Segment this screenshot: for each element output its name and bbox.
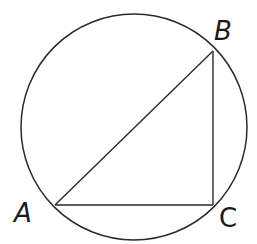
- vertex-label-a: A: [12, 198, 32, 228]
- vertex-label-c: C: [219, 203, 237, 233]
- geometry-diagram: A B C: [0, 0, 257, 244]
- segment-ab-hypotenuse: [55, 51, 213, 205]
- vertex-label-b: B: [214, 16, 232, 46]
